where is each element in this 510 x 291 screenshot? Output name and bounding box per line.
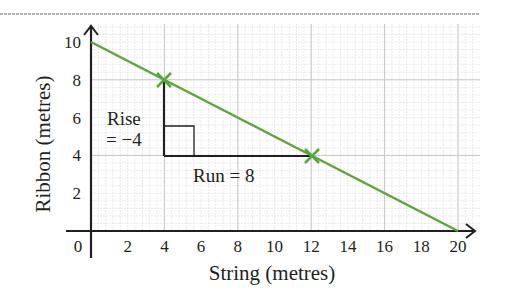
x-tick-label: 4	[160, 237, 169, 256]
x-tick-label: 20	[450, 237, 467, 256]
y-tick-label: 8	[73, 71, 82, 90]
x-tick-label: 18	[413, 237, 430, 256]
x-tick-labels: 2468101214161820	[123, 237, 466, 256]
run-label: Run = 8	[193, 165, 254, 186]
x-tick-label: 14	[339, 237, 357, 256]
x-tick-label: 6	[197, 237, 206, 256]
y-tick-label: 6	[73, 109, 82, 128]
origin-label: 0	[74, 237, 83, 256]
x-tick-label: 10	[266, 237, 283, 256]
rise-value: = −4	[106, 129, 142, 150]
grid	[91, 24, 480, 231]
x-tick-label: 12	[303, 237, 320, 256]
x-tick-label: 2	[123, 237, 132, 256]
y-tick-label: 10	[64, 33, 81, 52]
chart: 2468101214161820 246810 0 String (metres…	[0, 0, 510, 291]
y-tick-label: 4	[73, 146, 82, 165]
rise-label: Rise	[107, 108, 141, 129]
y-tick-label: 2	[73, 184, 82, 203]
x-axis-label: String (metres)	[209, 261, 336, 285]
x-tick-label: 16	[376, 237, 393, 256]
y-axis-label: Ribbon (metres)	[31, 75, 55, 212]
x-tick-label: 8	[234, 237, 243, 256]
y-tick-labels: 246810	[64, 33, 82, 203]
